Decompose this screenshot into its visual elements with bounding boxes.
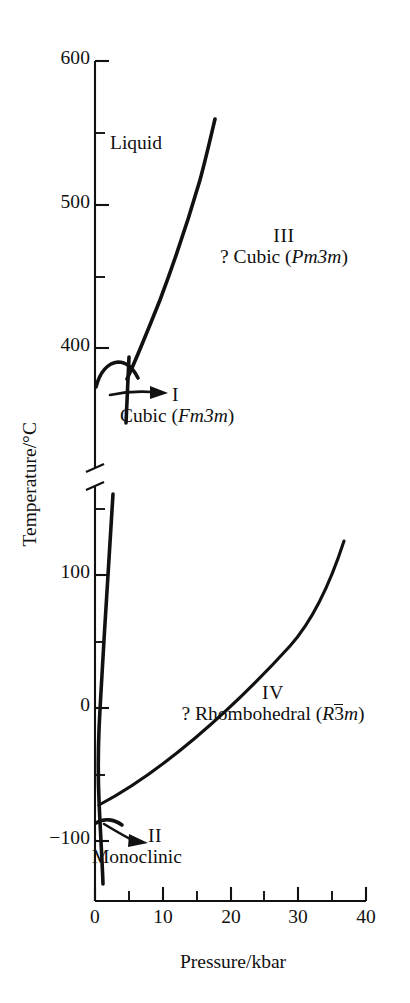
region-label-phase-II-name: Monoclinic xyxy=(92,847,266,868)
region-label-phase-III-roman: III xyxy=(175,226,393,247)
region-label-phase-III: III ? Cubic (Pm3m) xyxy=(175,226,393,267)
x-axis xyxy=(95,887,366,901)
x-tick-label-40: 40 xyxy=(349,907,383,928)
region-label-phase-II: II Monoclinic xyxy=(104,826,266,867)
region-label-liquid-text: Liquid xyxy=(110,132,162,153)
phase-IV-prefix: ? Rhombohedral ( xyxy=(181,703,322,724)
region-label-liquid: Liquid xyxy=(110,133,162,154)
y-tick-label-600: 600 xyxy=(38,48,90,69)
y-axis-title: Temperature/°C xyxy=(20,384,41,584)
phase-diagram-figure: 600 500 400 100 0 −100 0 10 20 30 40 Tem… xyxy=(0,0,410,1003)
x-tick-label-10: 10 xyxy=(146,907,180,928)
phase-IV-suffix: ) xyxy=(358,703,365,724)
y-tick-label-500: 500 xyxy=(38,192,90,213)
y-tick-label-0: 0 xyxy=(38,695,90,716)
region-label-phase-I-name: Cubic (Fm3m) xyxy=(120,406,300,427)
phase-IV-space-group-r: R xyxy=(322,703,334,724)
region-label-phase-III-name: ? Cubic (Pm3m) xyxy=(175,247,393,268)
region-label-phase-II-roman: II xyxy=(104,826,266,847)
phase-I-prefix: Cubic ( xyxy=(120,405,178,426)
y-tick-label-400: 400 xyxy=(38,335,90,356)
x-tick-label-30: 30 xyxy=(281,907,315,928)
phase-III-prefix: ? Cubic ( xyxy=(220,246,291,267)
x-tick-label-20: 20 xyxy=(214,907,248,928)
phase-IV-space-group-3-overbar: 3 xyxy=(334,704,344,725)
phase-III-space-group: Pm3m xyxy=(292,246,342,267)
phase-III-suffix: ) xyxy=(341,246,348,267)
region-label-phase-I: I Cubic (Fm3m) xyxy=(152,385,300,426)
region-label-phase-IV-name: ? Rhombohedral (R3m) xyxy=(142,704,404,725)
curve-IV-lower-boundary xyxy=(99,541,344,805)
region-label-phase-I-roman: I xyxy=(152,385,300,406)
phase-I-space-group: Fm3m xyxy=(178,405,228,426)
x-axis-title: Pressure/kbar xyxy=(95,952,371,973)
phase-IV-space-group-m: m xyxy=(344,703,358,724)
phase-I-suffix: ) xyxy=(228,405,235,426)
y-tick-label-minus100: −100 xyxy=(26,828,90,849)
x-tick-label-0: 0 xyxy=(81,907,109,928)
region-label-phase-IV: IV ? Rhombohedral (R3m) xyxy=(142,683,404,724)
region-label-phase-IV-roman: IV xyxy=(142,683,404,704)
y-tick-label-100: 100 xyxy=(38,562,90,583)
